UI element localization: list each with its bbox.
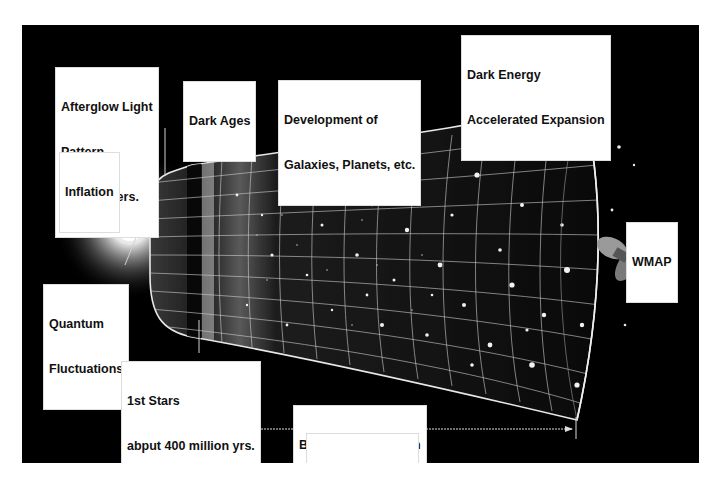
label-first-stars: 1st Stars abput 400 million yrs. bbox=[121, 361, 261, 463]
label-line: 1st Stars bbox=[127, 394, 255, 409]
label-line: Dark Energy bbox=[467, 68, 605, 83]
label-development-of-galaxies: Development of Galaxies, Planets, etc. bbox=[278, 80, 421, 206]
label-line: Afterglow Light bbox=[61, 100, 153, 115]
label-line: abput 400 million yrs. bbox=[127, 439, 255, 454]
label-line: Fluctuations bbox=[49, 362, 123, 377]
universe-timeline-diagram: Afterglow Light Pattern 380,000 yers. Da… bbox=[22, 25, 699, 463]
label-dark-ages: Dark Ages bbox=[183, 81, 256, 162]
label-line: Accelerated Expansion bbox=[467, 113, 605, 128]
label-dark-energy: Dark Energy Accelerated Expansion bbox=[461, 35, 611, 161]
label-line: Galaxies, Planets, etc. bbox=[284, 158, 415, 173]
label-line: Development of bbox=[284, 113, 415, 128]
label-line: WMAP bbox=[632, 255, 672, 270]
label-quantum-fluctuations: Quantum Fluctuations bbox=[43, 284, 129, 410]
label-13-7-billion-years: 13.7 billion years bbox=[306, 433, 419, 463]
label-inflation: Inflation bbox=[59, 152, 120, 233]
label-line: Inflation bbox=[65, 185, 114, 200]
label-line: Dark Ages bbox=[189, 114, 250, 129]
label-line: Quantum bbox=[49, 317, 123, 332]
label-wmap: WMAP bbox=[626, 222, 678, 303]
